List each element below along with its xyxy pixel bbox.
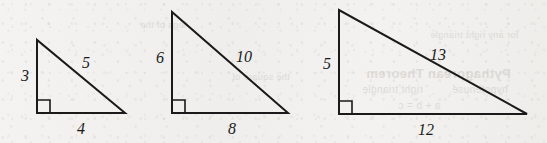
right-angle-marker [339,101,352,114]
side-label-vertical-leg: 6 [156,50,164,66]
side-label-hypotenuse: 10 [236,49,252,65]
side-label-vertical-leg: 5 [323,56,331,72]
right-angle-marker [37,100,50,113]
side-label-base: 12 [418,122,434,138]
side-label-vertical-leg: 3 [21,68,29,84]
triangle-outline [172,12,288,113]
triangles-figure: Pythagorean Theoremright trianglehypoten… [0,0,547,143]
side-label-hypotenuse: 5 [82,55,90,71]
side-label-base: 4 [77,121,85,137]
side-label-hypotenuse: 13 [430,47,446,63]
right-angle-marker [172,100,185,113]
triangle-3-4-5 [37,40,125,113]
triangle-6-8-10 [172,12,288,113]
side-label-base: 8 [228,121,236,137]
